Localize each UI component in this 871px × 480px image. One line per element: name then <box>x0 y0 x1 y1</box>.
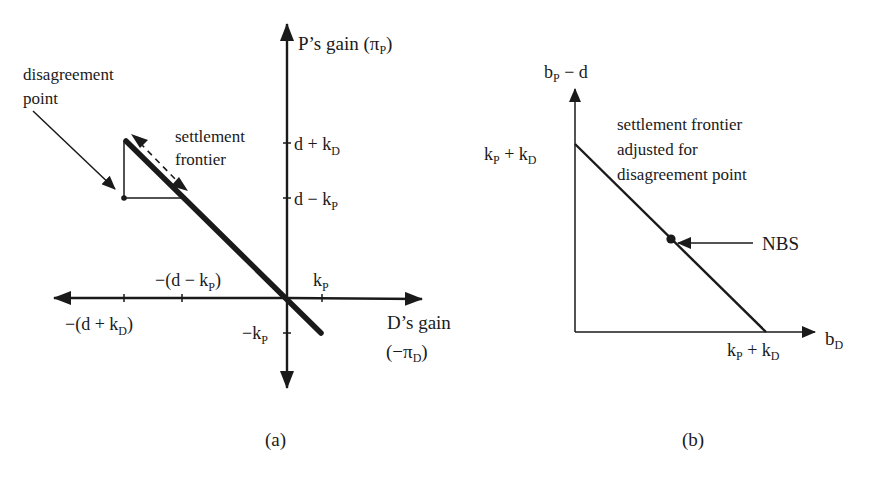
panel-b-caption: (b) <box>682 429 704 451</box>
adjusted-frontier-label-line1: settlement frontier <box>617 115 742 134</box>
adjusted-frontier-label-line2: adjusted for <box>617 140 698 159</box>
bp-minus-d-axis-label: bP − d <box>544 62 588 85</box>
panel-a: P’s gain (πP) disagreement point settlem… <box>23 24 451 451</box>
bd-axis-label: bD <box>825 328 844 352</box>
tick-label-minus-d-plus-kd: −(d + kD) <box>65 314 133 338</box>
tick-label-minus-d-minus-kp: −(d − kP) <box>155 270 221 294</box>
settlement-frontier-line <box>126 141 321 333</box>
x-intercept-label: kP + kD <box>727 340 780 363</box>
adjusted-frontier-label-line3: disagreement point <box>617 165 747 184</box>
tick-label-d-minus-kp: d − kP <box>294 189 338 213</box>
diagram-canvas: P’s gain (πP) disagreement point settlem… <box>0 0 871 480</box>
disagreement-label-line2: point <box>23 89 58 108</box>
d-gain-axis-label-line1: D’s gain <box>387 312 451 333</box>
panel-a-caption: (a) <box>265 429 286 451</box>
d-gain-axis-label-line2: (−πD) <box>386 341 428 365</box>
frontier-label-line2: frontier <box>175 150 226 169</box>
disagreement-label-line1: disagreement <box>23 65 114 84</box>
d-gain-axis-right <box>287 298 422 299</box>
tick-label-minus-kp: −kP <box>242 323 268 347</box>
panel-b: bP − d kP + kD settlement frontier adjus… <box>484 62 844 451</box>
tick-label-kp: kP <box>313 270 329 294</box>
tick-label-d-plus-kd: d + kD <box>294 134 340 158</box>
nbs-point <box>666 234 675 243</box>
p-gain-axis-label: P’s gain (πP) <box>298 33 392 57</box>
y-intercept-label: kP + kD <box>484 144 537 167</box>
disagreement-point-dot <box>121 195 127 201</box>
frontier-label-line1: settlement <box>175 127 245 146</box>
disagreement-pointer-arrow <box>33 111 115 189</box>
nbs-label: NBS <box>762 233 799 254</box>
